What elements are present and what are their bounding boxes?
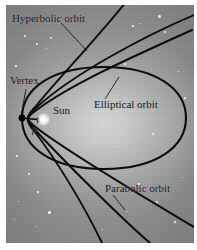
label-hyperbolic-orbit: Hyperbolic orbit bbox=[12, 13, 85, 24]
label-elliptical-orbit: Elliptical orbit bbox=[94, 99, 158, 110]
parabolic-leader-line bbox=[113, 195, 125, 210]
label-vertex: Vertex bbox=[10, 75, 39, 86]
parabolic-orbit-path bbox=[28, 30, 194, 227]
sun-marker bbox=[37, 113, 50, 126]
label-p: p bbox=[32, 124, 37, 135]
orbit-figure: Hyperbolic orbit Vertex Sun p Elliptical… bbox=[0, 0, 197, 250]
figure-plate: Hyperbolic orbit Vertex Sun p Elliptical… bbox=[6, 5, 194, 243]
elliptical-leader-line bbox=[105, 77, 119, 99]
vertex-point-marker bbox=[19, 115, 26, 122]
label-sun: Sun bbox=[53, 105, 70, 116]
hyperbolic-orbit-inner-path bbox=[28, 15, 194, 243]
label-parabolic-orbit: Parabolic orbit bbox=[105, 183, 170, 194]
hyperbolic-leader-line bbox=[61, 23, 87, 51]
